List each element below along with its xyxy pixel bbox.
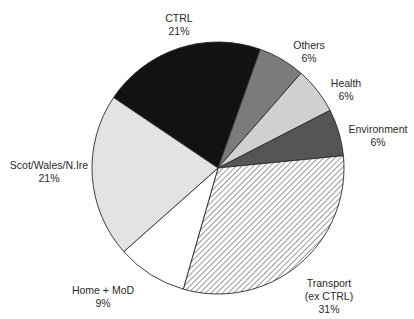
pie-slices bbox=[92, 42, 344, 294]
label-health-name: Health bbox=[331, 77, 361, 90]
label-others-name: Others bbox=[293, 39, 325, 52]
label-scot-pct: 21% bbox=[10, 172, 88, 185]
label-ctrl: CTRL 21% bbox=[165, 12, 192, 38]
label-home-name: Home + MoD bbox=[72, 284, 134, 297]
label-ctrl-name: CTRL bbox=[165, 12, 192, 25]
label-scot: Scot/Wales/N.Ire 21% bbox=[10, 159, 88, 185]
label-transport: Transport (ex CTRL) 31% bbox=[305, 277, 353, 316]
label-others: Others 6% bbox=[293, 39, 325, 65]
label-ctrl-pct: 21% bbox=[165, 25, 192, 38]
label-transport-name: Transport bbox=[305, 277, 353, 290]
label-transport-sub: (ex CTRL) bbox=[305, 290, 353, 303]
label-health-pct: 6% bbox=[331, 90, 361, 103]
label-environment-name: Environment bbox=[349, 123, 408, 136]
label-others-pct: 6% bbox=[293, 52, 325, 65]
label-home: Home + MoD 9% bbox=[72, 284, 134, 310]
label-transport-pct: 31% bbox=[305, 303, 353, 316]
label-home-pct: 9% bbox=[72, 297, 134, 310]
label-health: Health 6% bbox=[331, 77, 361, 103]
label-scot-name: Scot/Wales/N.Ire bbox=[10, 159, 88, 172]
label-environment: Environment 6% bbox=[349, 123, 408, 149]
label-environment-pct: 6% bbox=[349, 136, 408, 149]
